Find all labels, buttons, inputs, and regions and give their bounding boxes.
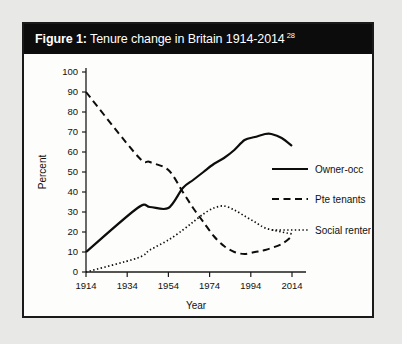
y-tick-label: 50 xyxy=(67,166,78,177)
figure-title-bar: Figure 1: Tenure change in Britain 1914-… xyxy=(24,24,372,54)
y-tick-label: 20 xyxy=(67,226,78,237)
figure-title-text: Tenure change in Britain 1914-2014 xyxy=(90,33,285,47)
y-tick-label: 80 xyxy=(67,106,78,117)
y-tick-label: 100 xyxy=(62,66,78,77)
y-tick-label: 90 xyxy=(67,86,78,97)
y-tick-label: 40 xyxy=(67,186,78,197)
x-tick-label: 1954 xyxy=(158,280,179,291)
y-tick-label: 60 xyxy=(67,146,78,157)
tenure-line-chart: 0102030405060708090100 19141934195419741… xyxy=(24,54,371,316)
footnote-marker: 28 xyxy=(287,31,295,40)
series-line xyxy=(86,206,292,272)
chart-legend: Owner-occPte tenantsSocial renters xyxy=(272,164,371,236)
y-tick-label: 30 xyxy=(67,206,78,217)
x-axis-ticks: 191419341954197419942014 xyxy=(75,272,302,291)
x-tick-label: 1914 xyxy=(75,280,96,291)
legend-label: Pte tenants xyxy=(315,194,366,205)
figure-label: Figure 1: xyxy=(35,33,87,47)
y-axis-ticks: 0102030405060708090100 xyxy=(62,66,86,277)
x-tick-label: 1994 xyxy=(240,280,261,291)
figure-title: Figure 1: Tenure change in Britain 1914-… xyxy=(35,31,295,46)
x-axis-title: Year xyxy=(186,300,207,311)
legend-label: Social renters xyxy=(315,225,371,236)
y-tick-label: 0 xyxy=(73,266,78,277)
x-tick-label: 2014 xyxy=(281,280,302,291)
legend-label: Owner-occ xyxy=(315,164,363,175)
series-line xyxy=(86,134,292,252)
chart-series xyxy=(86,92,292,272)
figure-card: Figure 1: Tenure change in Britain 1914-… xyxy=(22,22,374,318)
x-tick-label: 1934 xyxy=(117,280,138,291)
chart-plot-area: 0102030405060708090100 19141934195419741… xyxy=(24,54,372,316)
y-axis-title: Percent xyxy=(37,155,48,190)
y-tick-label: 10 xyxy=(67,246,78,257)
series-line xyxy=(86,92,292,254)
y-tick-label: 70 xyxy=(67,126,78,137)
x-tick-label: 1974 xyxy=(199,280,220,291)
